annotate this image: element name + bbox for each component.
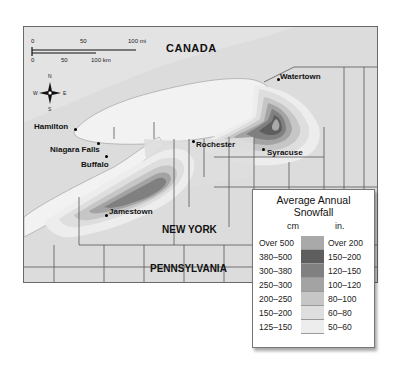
compass-n: N [48,73,52,79]
label-canada: CANADA [166,42,217,54]
scale-mi-100: 100 mi [128,38,146,44]
legend-cm: 150–200 [259,306,301,320]
scale-mi-50: 50 [80,38,87,44]
compass-e: E [63,90,66,96]
legend-row: Over 500 Over 200 [253,236,374,250]
compass-s: S [48,106,51,112]
city-rochester: Rochester [196,140,235,149]
city-dot-jamestown [105,214,108,217]
city-hamilton: Hamilton [34,122,68,131]
legend-in: 80–100 [328,292,356,306]
legend-in: Over 200 [328,236,363,250]
legend-title-line1: Average Annual [253,194,374,206]
legend-cm: 300–380 [259,264,301,278]
city-dot-syracuse [262,148,265,151]
legend-swatch [301,306,324,320]
legend-row: 125–150 50–60 [253,320,374,334]
scale-km-100: 100 km [91,57,111,63]
scale-km-0: 0 [31,57,34,63]
legend-in: 150–200 [328,250,361,264]
legend-row: 250–300 100–120 [253,278,374,292]
legend-cm: 125–150 [259,320,301,334]
city-dot-rochester [192,140,195,143]
scale-mi-0: 0 [31,38,34,44]
city-dot-hamilton [74,128,77,131]
city-niagara-falls: Niagara Falls [50,145,100,154]
city-watertown: Watertown [280,72,321,81]
legend-unit-in: in. [335,221,345,231]
legend-cm: 200–250 [259,292,301,306]
city-jamestown: Jamestown [109,207,153,216]
legend-in: 100–120 [328,278,361,292]
legend-cm: 380–500 [259,250,301,264]
label-pennsylvania: PENNSYLVANIA [150,263,227,274]
legend-swatch [301,278,324,292]
city-dot-buffalo [105,155,108,158]
legend-swatch [301,264,324,278]
scale-km-50: 50 [61,57,68,63]
legend-cm: Over 500 [259,236,301,250]
legend-row: 200–250 80–100 [253,292,374,306]
legend-title-line2: Snowfall [253,206,374,218]
legend-row: 300–380 120–150 [253,264,374,278]
compass-w: W [33,90,38,96]
label-new-york: NEW YORK [162,224,217,235]
city-buffalo: Buffalo [81,160,109,169]
legend-swatch [301,250,324,264]
city-syracuse: Syracuse [267,148,303,157]
legend-row: 150–200 60–80 [253,306,374,320]
legend-unit-cm: cm [287,221,299,231]
legend-swatch [301,236,324,250]
legend-in: 50–60 [328,320,352,334]
legend-swatch [301,292,324,306]
legend-in: 60–80 [328,306,352,320]
legend-swatch [301,320,324,334]
legend-in: 120–150 [328,264,361,278]
legend-cm: 250–300 [259,278,301,292]
snowfall-legend: Average Annual Snowfall cm in. Over 500 … [252,189,375,348]
legend-row: 380–500 150–200 [253,250,374,264]
